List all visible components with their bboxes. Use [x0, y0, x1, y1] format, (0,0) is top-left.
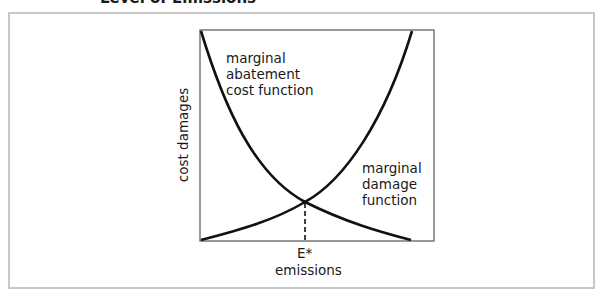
- x-axis-label: emissions: [275, 262, 342, 278]
- abatement-curve-label: marginal abatement cost function: [226, 50, 313, 98]
- damage-curve-label: marginal damage function: [362, 160, 422, 208]
- equilibrium-label: E*: [297, 245, 312, 261]
- y-axis-label: cost damages: [175, 88, 191, 182]
